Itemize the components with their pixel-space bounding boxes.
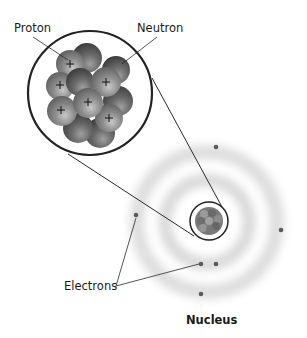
proton-label: Proton [14,23,51,35]
nucleus-cluster [195,207,223,235]
electron [134,213,139,218]
neutron-label: Neutron [137,23,183,35]
electron [279,228,284,233]
proton-sphere [47,96,77,126]
electron [199,292,204,297]
nucleus-label: Nucleus [186,315,237,327]
electron-leader-line [116,218,136,286]
electron [214,145,219,150]
electron [214,262,219,267]
electrons-label: Electrons [64,281,117,293]
atom-diagram [0,0,307,338]
electron [199,262,204,267]
